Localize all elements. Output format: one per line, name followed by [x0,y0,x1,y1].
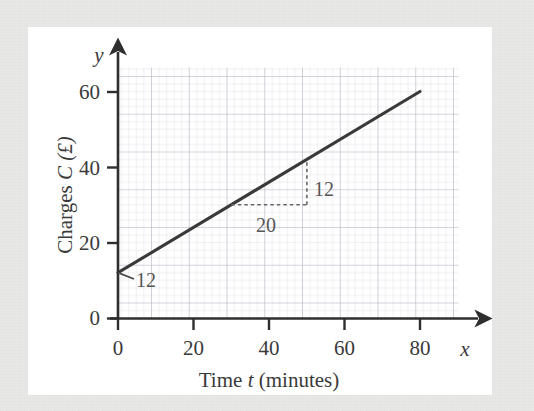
y-axis-title-symbol: C [53,165,77,180]
x-axis-ticks [118,319,420,331]
x-axis-title-prefix: Time [199,368,248,392]
x-tick-label-80: 80 [410,336,431,360]
y-axis-title-prefix: Charges [53,180,77,254]
x-tick-label-0: 0 [113,336,124,360]
y-tick-label-60: 60 [79,80,100,104]
x-axis-title-suffix: (minutes) [253,368,339,392]
y-tick-label-0: 0 [90,306,101,330]
rise-label: 12 [314,178,334,200]
y-axis-tick-labels: 0 20 40 60 [79,80,100,330]
line-graph: 0 20 40 60 0 20 40 60 80 y x Time t (min… [0,0,534,411]
y-axis-title: Charges C (£) [53,136,77,253]
svg-text:Charges C (£): Charges C (£) [53,136,77,253]
intercept-label: 12 [136,269,156,291]
x-tick-label-40: 40 [259,336,280,360]
svg-text:Time t (minutes): Time t (minutes) [199,368,339,392]
y-axis-ticks [107,92,118,319]
y-axis-title-suffix: (£) [53,136,77,166]
y-axis-name: y [92,43,104,67]
x-tick-label-60: 60 [334,336,355,360]
y-tick-label-40: 40 [79,156,100,180]
run-label: 20 [256,214,276,236]
y-tick-label-20: 20 [79,231,100,255]
figure-page: 0 20 40 60 0 20 40 60 80 y x Time t (min… [0,0,534,411]
x-axis-tick-labels: 0 20 40 60 80 [113,336,431,360]
x-axis-title: Time t (minutes) [199,368,339,392]
plot-grid [119,67,459,318]
x-axis-name: x [459,337,470,361]
x-tick-label-20: 20 [183,336,204,360]
